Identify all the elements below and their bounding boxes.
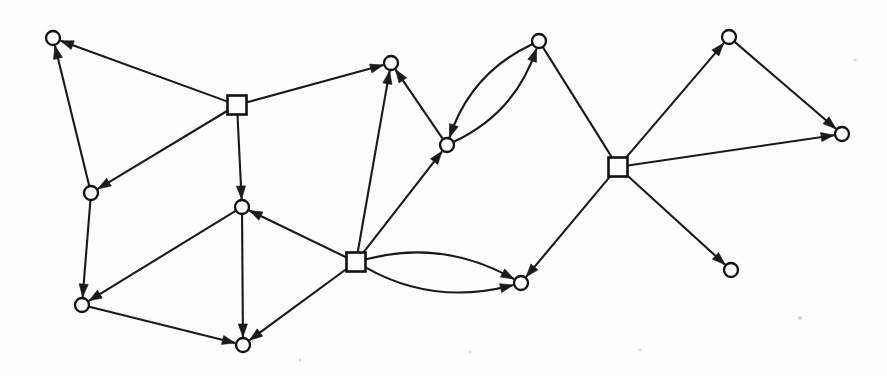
scan-speck	[853, 58, 856, 61]
graph-edge-s2-to-c9	[366, 252, 514, 279]
graph-edge-c2-to-c3	[83, 200, 91, 297]
arrowhead-s2-to-c9	[500, 269, 514, 279]
arrowhead-s2-to-c9	[500, 284, 514, 293]
arrowhead-s2-to-c6	[383, 71, 392, 85]
graph-node-circle-c8	[532, 34, 546, 48]
graph-node-circle-c3	[75, 298, 89, 312]
arrowheads-layer	[54, 41, 836, 345]
graph-node-square-s3	[609, 158, 628, 177]
scan-speck	[798, 316, 802, 320]
graph-figure	[0, 0, 887, 376]
arrowhead-c8-to-c7	[449, 124, 458, 138]
arrowhead-c7-to-c6	[396, 70, 407, 83]
graph-edge-c3-to-c5	[89, 307, 235, 343]
arrowhead-s2-to-c4	[249, 210, 263, 220]
arrowhead-s3-to-c11	[821, 133, 835, 142]
graph-edge-s3-to-c9	[526, 177, 610, 277]
graph-node-circle-c2	[84, 186, 98, 200]
arrowhead-s2-to-c5	[249, 329, 262, 340]
graph-edge-s3-to-c10	[626, 43, 723, 157]
arrowhead-s1-to-c2	[98, 178, 112, 189]
graph-node-circle-c4	[235, 200, 249, 214]
graph-node-square-s1	[228, 96, 247, 115]
graph-edge-c4-to-c3	[89, 211, 236, 301]
graph-edge-s1-to-c2	[98, 111, 227, 189]
graph-node-circle-c12	[724, 263, 738, 277]
graph-edge-s1-to-c1	[61, 41, 228, 102]
scan-speck	[299, 359, 302, 362]
edges-layer	[55, 41, 836, 343]
graph-node-square-s2	[347, 253, 366, 272]
graph-edge-c2-to-c1	[55, 46, 89, 186]
graph-node-circle-c5	[236, 338, 250, 352]
graph-edge-c8-to-c7	[449, 44, 532, 137]
arrowhead-s1-to-c1	[61, 41, 75, 50]
arrowhead-s1-to-c6	[370, 64, 384, 73]
graph-edge-s2-to-c7	[364, 151, 442, 252]
arrowhead-c2-to-c3	[79, 284, 88, 297]
graph-edge-c8-to-s3	[543, 47, 612, 157]
graph-edge-s2-to-c9	[366, 268, 513, 293]
graph-node-circle-c10	[722, 30, 736, 44]
graph-canvas	[0, 0, 887, 376]
arrowhead-c7-to-c8	[528, 49, 537, 63]
graph-edge-s1-to-c6	[247, 65, 383, 102]
scan-speck	[469, 351, 472, 354]
graph-edge-s2-to-c5	[249, 269, 346, 340]
graph-edge-c7-to-c8	[454, 49, 537, 142]
graph-node-circle-c1	[46, 31, 60, 45]
graph-node-circle-c7	[440, 138, 454, 152]
arrowhead-c4-to-c5	[238, 324, 247, 337]
graph-node-circle-c9	[514, 276, 528, 290]
arrowhead-s1-to-c4	[236, 186, 245, 199]
arrowhead-c4-to-c3	[89, 290, 102, 301]
graph-edge-c4-to-c5	[242, 214, 243, 337]
graph-node-circle-c11	[835, 127, 849, 141]
graph-node-circle-c6	[384, 56, 398, 70]
graph-edge-s3-to-c11	[628, 135, 834, 165]
scan-speck	[639, 349, 642, 352]
arrowhead-c3-to-c5	[222, 335, 236, 344]
arrowhead-c2-to-c1	[54, 46, 63, 60]
graph-edge-c10-to-c11	[735, 42, 836, 129]
graph-edge-s3-to-c12	[628, 176, 725, 265]
graph-edge-s2-to-c4	[249, 210, 346, 257]
